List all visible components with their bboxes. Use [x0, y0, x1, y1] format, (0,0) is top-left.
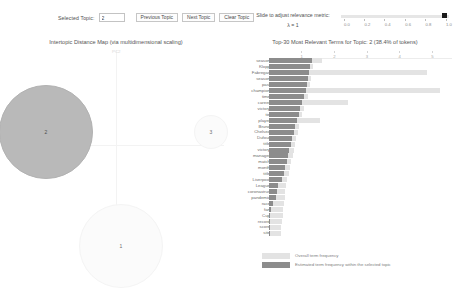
bar-topic-frequency [269, 106, 300, 111]
bar-term-label[interactable]: coronavirus [248, 189, 270, 195]
intertopic-map-title: Intertopic Distance Map (via multidimens… [0, 39, 232, 45]
bar-topic-frequency [269, 201, 273, 206]
axis-label-pc2: PC2 [112, 49, 121, 54]
lambda-tick-mark [405, 19, 406, 21]
topic-circle-1[interactable]: 1 [79, 204, 163, 288]
lambda-slider[interactable]: 0.00.20.40.60.81.0 [341, 13, 449, 31]
bar-topic-frequency [269, 177, 282, 182]
lambda-slider-ticks: 0.00.20.40.60.81.0 [341, 19, 449, 30]
bar-topic-frequency [269, 136, 292, 141]
relevance-metric-text: Slide to adjust relevance metric: λ = 1 [248, 12, 338, 28]
next-topic-button[interactable]: Next Topic [182, 13, 215, 22]
bar-topic-frequency [269, 165, 285, 170]
selected-topic-input[interactable] [99, 13, 125, 22]
previous-topic-button[interactable]: Previous Topic [136, 13, 178, 22]
bar-topic-frequency [269, 142, 291, 147]
bar-topic-frequency [269, 130, 294, 135]
bar-chart-bars: seasonKloppFabregasseasonpastchampiontim… [232, 58, 458, 236]
lambda-tick-mark [425, 19, 426, 21]
intertopic-distance-panel: Intertopic Distance Map (via multidimens… [0, 34, 232, 281]
legend-label-topic: Estimated term frequency within the sele… [295, 262, 391, 267]
bar-overall-frequency [269, 225, 281, 230]
top-terms-panel: Top-30 Most Relevant Terms for Topic: 2 … [232, 34, 458, 281]
bar-topic-frequency [269, 148, 289, 153]
lambda-tick-mark [364, 19, 365, 21]
relevance-metric-label: Slide to adjust relevance metric: [248, 12, 338, 18]
topic-circle-label: 1 [120, 243, 123, 249]
top-control-bar: Selected Topic: Previous Topic Next Topi… [0, 0, 458, 34]
bar-topic-frequency [269, 171, 284, 176]
bar-overall-frequency [269, 207, 283, 212]
lambda-slider-track[interactable] [341, 15, 449, 18]
bar-topic-frequency [269, 213, 270, 218]
top-terms-title: Top-30 Most Relevant Terms for Topic: 2 … [232, 39, 458, 45]
bar-topic-frequency [269, 82, 307, 87]
bar-chart-x-axis: 12345 [269, 51, 452, 57]
bar-chart-legend: Overall term frequency Estimated term fr… [262, 252, 442, 270]
bar-topic-frequency [269, 88, 306, 93]
topic-circle-2[interactable]: 2 [0, 85, 93, 179]
legend-label-overall: Overall term frequency [295, 253, 338, 258]
topic-circle-label: 2 [45, 129, 48, 135]
bar-topic-frequency [269, 94, 304, 99]
bar-topic-frequency [269, 207, 271, 212]
lambda-tick-mark [384, 19, 385, 21]
lambda-slider-handle[interactable] [442, 13, 447, 18]
relevance-metric-group: Slide to adjust relevance metric: λ = 1 … [248, 11, 454, 35]
lambda-tick-mark [446, 19, 447, 21]
bar-term-label[interactable]: Fabregas [252, 70, 270, 76]
bar-topic-frequency [269, 231, 270, 236]
bar-row[interactable]: site [232, 230, 458, 236]
topic-circle-3[interactable]: 3 [194, 115, 228, 149]
legend-swatch-topic [262, 262, 290, 268]
bar-topic-frequency [269, 153, 288, 158]
bar-topic-frequency [269, 195, 276, 200]
bar-topic-frequency [269, 124, 295, 129]
bar-term-label[interactable]: Liverpool [253, 177, 270, 183]
bar-term-label[interactable]: season [256, 58, 270, 64]
bar-term-label[interactable]: pandemic [251, 195, 270, 201]
bar-term-label[interactable]: Chelsea [254, 129, 270, 135]
topic-circle-label: 3 [210, 129, 213, 135]
bar-topic-frequency [269, 58, 312, 63]
topic-selector-group: Selected Topic: Previous Topic Next Topi… [58, 13, 254, 22]
lambda-tick-mark [344, 19, 345, 21]
bar-topic-frequency [269, 189, 277, 194]
bar-term-label[interactable]: champion [251, 88, 270, 94]
bar-topic-frequency [269, 219, 270, 224]
bar-topic-frequency [269, 70, 309, 75]
selected-topic-label: Selected Topic: [58, 15, 95, 21]
bar-overall-frequency [269, 219, 282, 224]
bar-term-label[interactable]: League [256, 183, 270, 189]
legend-row-overall: Overall term frequency [262, 252, 442, 261]
legend-swatch-overall [262, 253, 290, 259]
bar-topic-frequency [269, 159, 287, 164]
bar-term-label[interactable]: season [256, 76, 270, 82]
bar-topic-frequency [269, 64, 310, 69]
bar-topic-frequency [269, 76, 308, 81]
bar-topic-frequency [269, 100, 302, 105]
bar-overall-frequency [269, 213, 283, 218]
bar-topic-frequency [269, 183, 278, 188]
bar-overall-frequency [269, 231, 281, 236]
bar-topic-frequency [269, 112, 299, 117]
intertopic-plot-area[interactable]: PC2 PC1 213 [8, 50, 224, 272]
bar-topic-frequency [269, 118, 297, 123]
lambda-value-label: λ = 1 [248, 22, 338, 28]
legend-row-topic: Estimated term frequency within the sele… [262, 261, 442, 270]
bar-topic-frequency [269, 225, 270, 230]
bar-term-label[interactable]: manager [253, 153, 270, 159]
